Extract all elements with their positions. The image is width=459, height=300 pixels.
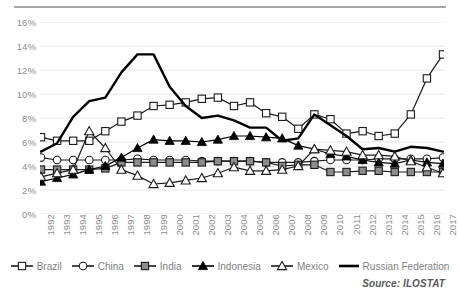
y-tick-label: 8% <box>22 113 36 124</box>
top-divider <box>14 6 446 8</box>
legend-item-russian-federation[interactable]: Russian Federation <box>338 260 450 272</box>
legend-item-indonesia[interactable]: Indonesia <box>191 260 261 272</box>
y-tick-label: 2% <box>22 185 36 196</box>
legend-marker-icon <box>133 260 157 272</box>
x-tick-label: 2011 <box>351 214 362 235</box>
x-tick-label: 2017 <box>447 214 458 236</box>
legend-item-brazil[interactable]: Brazil <box>10 260 62 272</box>
x-tick-label: 1994 <box>77 214 88 236</box>
y-tick-label: 10% <box>17 89 36 100</box>
y-tick-label: 0% <box>22 209 36 220</box>
x-tick-label: 2005 <box>254 214 265 236</box>
x-tick-label: 2002 <box>206 214 217 236</box>
x-axis: 1992199319941995199619971998199920002001… <box>40 214 444 256</box>
x-tick-label: 2000 <box>174 214 185 236</box>
x-tick-label: 2009 <box>318 214 329 236</box>
x-tick-label: 2012 <box>367 214 378 236</box>
legend-marker-icon <box>71 260 95 272</box>
x-tick-label: 2015 <box>415 214 426 236</box>
legend-marker-icon <box>338 260 360 272</box>
x-tick-label: 2016 <box>431 214 442 236</box>
y-tick-label: 6% <box>22 137 36 148</box>
x-tick-label: 1998 <box>141 214 152 236</box>
source-note: Source: ILOSTAT <box>362 278 445 289</box>
legend-label: Russian Federation <box>363 261 450 272</box>
x-tick-label: 2008 <box>302 214 313 236</box>
plot-svg <box>40 22 444 214</box>
legend-label: Indonesia <box>218 261 261 272</box>
legend-label: Mexico <box>297 261 329 272</box>
y-axis: 0%2%4%6%8%10%12%14%16% <box>0 22 36 214</box>
legend-item-china[interactable]: China <box>71 260 124 272</box>
legend-item-mexico[interactable]: Mexico <box>270 260 329 272</box>
y-tick-label: 14% <box>17 41 36 52</box>
legend-marker-icon <box>191 260 215 272</box>
x-tick-label: 2003 <box>222 214 233 236</box>
legend-item-india[interactable]: India <box>133 260 182 272</box>
x-tick-label: 1996 <box>109 214 120 236</box>
x-tick-label: 2007 <box>286 214 297 236</box>
x-tick-label: 2014 <box>399 214 410 236</box>
gridlines <box>40 22 444 214</box>
legend-label: China <box>98 261 124 272</box>
y-tick-label: 12% <box>17 65 36 76</box>
x-tick-label: 2001 <box>190 214 201 236</box>
x-tick-label: 2004 <box>238 214 249 236</box>
y-tick-label: 4% <box>22 161 36 172</box>
x-tick-label: 1993 <box>61 214 72 236</box>
unemployment-rate-line-chart: 0%2%4%6%8%10%12%14%16% 19921993199419951… <box>0 0 459 300</box>
plot-area <box>40 22 444 214</box>
x-tick-label: 2010 <box>334 214 345 236</box>
legend-marker-icon <box>10 260 34 272</box>
x-tick-label: 1999 <box>158 214 169 236</box>
x-tick-label: 2006 <box>270 214 281 236</box>
x-tick-label: 1995 <box>93 214 104 236</box>
chart-legend: BrazilChinaIndiaIndonesiaMexicoRussian F… <box>0 256 459 276</box>
legend-label: India <box>160 261 182 272</box>
legend-marker-icon <box>270 260 294 272</box>
x-tick-label: 1992 <box>45 214 56 236</box>
x-tick-label: 1997 <box>125 214 136 236</box>
x-tick-label: 2013 <box>383 214 394 236</box>
y-tick-label: 16% <box>17 17 36 28</box>
legend-label: Brazil <box>37 261 62 272</box>
